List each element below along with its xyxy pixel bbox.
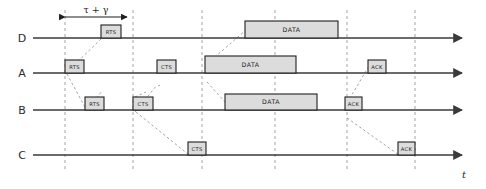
propagation-lines-group	[67, 30, 399, 155]
packet-rts-D-0[interactable]: RTS	[101, 25, 121, 38]
packet-label: DATA	[242, 61, 260, 68]
timeline-row-C: CCTSACK	[18, 142, 462, 162]
timing-diagram: DRTSDATAARTSCTSDATAACKBRTSCTSDATAACKCCTS…	[0, 0, 486, 189]
packet-data-A-2[interactable]: DATA	[205, 56, 296, 73]
span-annotation-label: τ + γ	[84, 4, 109, 15]
span-annotation: τ + γ	[65, 4, 127, 17]
packet-label: ACK	[348, 101, 360, 107]
row-label-B: B	[18, 104, 26, 117]
timing-diagram-canvas: DRTSDATAARTSCTSDATAACKBRTSCTSDATAACKCCTS…	[0, 0, 486, 189]
row-label-C: C	[18, 149, 26, 162]
packet-label: RTS	[106, 29, 117, 35]
propagation-line-10	[347, 118, 399, 155]
row-label-A: A	[18, 67, 26, 80]
timeline-row-D: DRTSDATA	[18, 21, 462, 45]
packet-ack-A-3[interactable]: ACK	[368, 60, 386, 73]
packet-rts-A-0[interactable]: RTS	[65, 60, 84, 73]
packet-data-B-2[interactable]: DATA	[225, 94, 317, 110]
packet-ack-B-3[interactable]: ACK	[345, 97, 362, 110]
packet-cts-A-1[interactable]: CTS	[157, 60, 176, 73]
packet-label: ACK	[371, 64, 383, 70]
row-label-D: D	[18, 32, 26, 45]
packet-ack-C-1[interactable]: ACK	[398, 142, 415, 155]
packet-label: DATA	[262, 98, 280, 105]
packet-label: CTS	[192, 146, 203, 152]
propagation-line-8	[207, 82, 226, 103]
time-axis-label: t	[462, 169, 467, 180]
propagation-line-5	[136, 112, 189, 155]
timeline-row-B: BRTSCTSDATAACK	[18, 94, 462, 117]
propagation-line-3	[135, 92, 146, 97]
packet-label: CTS	[161, 64, 172, 70]
packet-label: DATA	[283, 26, 301, 33]
packet-label: ACK	[401, 146, 413, 152]
packet-cts-B-1[interactable]: CTS	[133, 97, 153, 110]
propagation-line-1	[67, 74, 86, 109]
packet-label: RTS	[89, 101, 100, 107]
timeline-row-A: ARTSCTSDATAACK	[18, 56, 462, 80]
packet-rts-B-0[interactable]: RTS	[85, 97, 104, 110]
packet-label: CTS	[138, 101, 149, 107]
packet-cts-C-0[interactable]: CTS	[188, 142, 206, 155]
propagation-line-6	[158, 85, 160, 86]
packet-data-D-1[interactable]: DATA	[245, 21, 338, 38]
timeline-rows-group: DRTSDATAARTSCTSDATAACKBRTSCTSDATAACKCCTS…	[18, 21, 462, 162]
packet-label: RTS	[69, 64, 80, 70]
